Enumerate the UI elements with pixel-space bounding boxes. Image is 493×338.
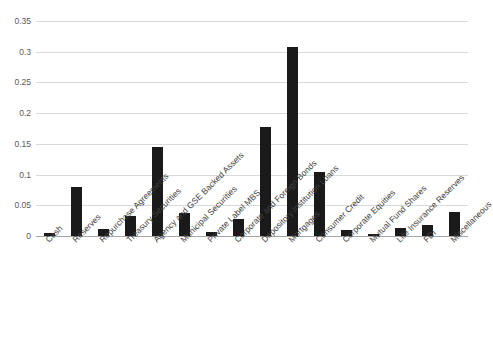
x-axis-labels: CashReservesRepurchase AgreementsTreasur… [36, 238, 468, 338]
y-axis-tick-label: 0.1 [19, 170, 31, 179]
y-axis-tick-label: 0 [26, 232, 31, 241]
y-axis-tick-label: 0.3 [19, 47, 31, 56]
y-axis-tick-label: 0.05 [14, 201, 31, 210]
y-axis-tick-label: 0.15 [14, 140, 31, 149]
y-axis-tick-label: 0.25 [14, 78, 31, 87]
y-axis-tick-label: 0.35 [14, 17, 31, 26]
y-axis-tick-label: 0.2 [19, 109, 31, 118]
